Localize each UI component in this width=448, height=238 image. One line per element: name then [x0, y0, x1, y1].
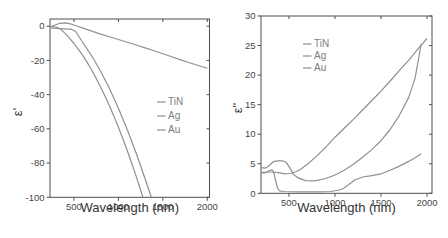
- y-tick-label: -20: [31, 55, 45, 66]
- curve-Au: [261, 44, 421, 181]
- y-tick-label: 20: [245, 69, 256, 80]
- y-tick-label: 10: [245, 128, 256, 139]
- legend-label-TiN: TiN: [168, 96, 183, 107]
- y-tick-label: -100: [25, 192, 44, 203]
- legend-label-TiN: TiN: [314, 38, 329, 49]
- y-tick-label: 25: [245, 40, 256, 51]
- x-tick-label: 500: [281, 197, 297, 208]
- legend-label-Ag: Ag: [314, 50, 326, 61]
- legend-label-Au: Au: [168, 124, 180, 135]
- y-tick-label: 0: [39, 20, 44, 31]
- y-axis-label: ε": [230, 102, 245, 113]
- curve-Ag: [51, 27, 143, 198]
- x-axis-label: Wavelength (nm): [81, 200, 180, 215]
- dielectric-function-figure: 5001000150020000-20-40-60-80-100TiNAgAuW…: [0, 0, 448, 238]
- epsilon-imag-chart: 500100015002000051015202530TiNAgAuWavele…: [224, 0, 448, 238]
- y-tick-label: 30: [245, 10, 256, 21]
- x-tick-label: 2000: [197, 201, 218, 212]
- y-tick-label: 0: [250, 188, 255, 199]
- curve-Ag: [261, 154, 421, 192]
- curve-Au: [51, 28, 151, 197]
- y-axis-label: ε': [10, 108, 25, 116]
- plot-frame: [261, 16, 432, 193]
- curve-TiN: [261, 39, 427, 174]
- curve-TiN: [50, 23, 207, 69]
- x-axis-label: Wavelength (nm): [297, 200, 396, 215]
- y-tick-label: 15: [245, 99, 256, 110]
- y-tick-label: -60: [31, 123, 45, 134]
- y-tick-label: -40: [31, 89, 45, 100]
- legend-label-Ag: Ag: [168, 110, 180, 121]
- epsilon-real-chart: 5001000150020000-20-40-60-80-100TiNAgAuW…: [0, 0, 224, 238]
- x-tick-label: 2000: [416, 197, 437, 208]
- legend-label-Au: Au: [314, 62, 326, 73]
- y-tick-label: 5: [250, 158, 255, 169]
- y-tick-label: -80: [31, 157, 45, 168]
- plot-frame: [50, 19, 210, 197]
